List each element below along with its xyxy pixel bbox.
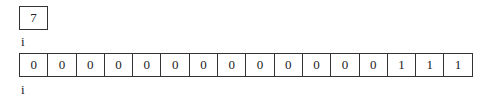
array-cell: 0	[218, 54, 246, 76]
array: 0000000000000111	[19, 53, 473, 77]
array-cell: 0	[190, 54, 218, 76]
array-cell: 1	[416, 54, 444, 76]
pointer-label-top: i	[21, 34, 25, 50]
array-cell: 0	[20, 54, 48, 76]
pointer-label-bottom: i	[21, 82, 25, 98]
array-cell: 0	[77, 54, 105, 76]
array-cell: 0	[48, 54, 76, 76]
array-cell: 0	[303, 54, 331, 76]
array-cell: 0	[275, 54, 303, 76]
array-cell: 1	[388, 54, 416, 76]
array-cell: 0	[246, 54, 274, 76]
array-cell: 0	[133, 54, 161, 76]
array-cell: 0	[105, 54, 133, 76]
array-cell: 0	[360, 54, 388, 76]
array-cell: 0	[161, 54, 189, 76]
value-box: 7	[19, 6, 48, 30]
array-cell: 0	[331, 54, 359, 76]
array-cell: 1	[444, 54, 472, 76]
